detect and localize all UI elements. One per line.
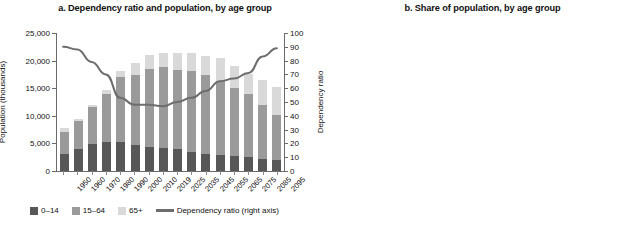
bar-2000 (131, 63, 140, 171)
axis-tick (52, 143, 56, 144)
axis-tick-label: 5,000 (30, 139, 50, 148)
x-axis-tick (263, 171, 264, 175)
axis-tick-label: 40 (290, 111, 299, 120)
bar-segment-014 (74, 149, 83, 171)
bar-2019 (159, 53, 168, 171)
panel-b-title: b. Share of population, by age group (330, 3, 635, 13)
panel-a-y-axis-title: Population (thousands) (0, 61, 7, 143)
bar-segment-65+ (131, 63, 140, 75)
x-axis-tick (191, 171, 192, 175)
axis-tick-label: 30 (290, 125, 299, 134)
bar-segment-1564 (102, 94, 111, 142)
legend-item[interactable]: Dependency ratio (right axis) (156, 206, 279, 215)
legend-item[interactable]: 65+ (118, 206, 143, 215)
panel-a-y2-axis-title: Dependency ratio (316, 71, 325, 134)
bar-segment-1564 (230, 88, 239, 155)
x-axis-tick (106, 171, 107, 175)
axis-tick-label: 15,000 (26, 84, 50, 93)
axis-tick-label: 10,000 (26, 111, 50, 120)
x-axis-tick (277, 171, 278, 175)
axis-tick-label: 20 (290, 139, 299, 148)
bar-segment-014 (131, 145, 140, 171)
bar-2055 (216, 58, 225, 171)
axis-tick (52, 61, 56, 62)
bar-segment-1564 (88, 107, 97, 144)
axis-tick (284, 130, 288, 131)
axis-tick (284, 157, 288, 158)
legend-label: 65+ (129, 206, 143, 215)
x-axis-tick (206, 171, 207, 175)
panel-a-legend: 0–1415–6465+Dependency ratio (right axis… (30, 206, 288, 215)
figure-root: a. Dependency ratio and population, by a… (0, 0, 635, 225)
panel-a: a. Dependency ratio and population, by a… (0, 0, 330, 225)
axis-tick (284, 47, 288, 48)
panel-b: b. Share of population, by age group Per… (330, 0, 635, 225)
bar-segment-014 (159, 148, 168, 171)
axis-tick (284, 143, 288, 144)
bar-segment-65+ (216, 58, 225, 80)
bar-segment-014 (60, 154, 69, 171)
bar-segment-014 (173, 149, 182, 171)
bar-segment-014 (116, 142, 125, 171)
bar-segment-65+ (201, 56, 210, 75)
bar-segment-65+ (230, 66, 239, 88)
bar-segment-1564 (258, 105, 267, 159)
axis-tick-label: 0 (290, 167, 294, 176)
legend-swatch-icon (30, 207, 38, 215)
legend-label: 15–64 (83, 206, 105, 215)
axis-tick (284, 102, 288, 103)
bar-segment-014 (201, 154, 210, 171)
axis-tick-label: 20,000 (26, 56, 50, 65)
bar-segment-1564 (145, 69, 154, 147)
axis-tick-label: 60 (290, 84, 299, 93)
bar-2010 (145, 55, 154, 171)
bar-segment-1564 (60, 132, 69, 155)
legend-item[interactable]: 0–14 (30, 206, 59, 215)
axis-tick (284, 61, 288, 62)
bar-1990 (116, 71, 125, 171)
axis-tick (284, 33, 288, 34)
bar-segment-014 (244, 157, 253, 171)
legend-label: 0–14 (41, 206, 59, 215)
bar-segment-014 (88, 144, 97, 171)
axis-tick (284, 171, 288, 172)
bar-1950 (60, 128, 69, 171)
bar-2075 (244, 74, 253, 171)
legend-line-icon (156, 209, 174, 212)
axis-tick (284, 116, 288, 117)
axis-tick-label: 10 (290, 153, 299, 162)
bar-2025 (173, 53, 182, 171)
bar-2045 (201, 56, 210, 171)
bar-2065 (230, 66, 239, 171)
x-axis-tick (149, 171, 150, 175)
bar-segment-014 (102, 142, 111, 171)
x-axis-tick (177, 171, 178, 175)
bar-segment-014 (187, 152, 196, 171)
x-axis-tick (234, 171, 235, 175)
x-axis-tick (120, 171, 121, 175)
x-axis-tick (163, 171, 164, 175)
panel-a-plot-area: 05,00010,00015,00020,00025,000 010203040… (56, 33, 284, 171)
bar-segment-014 (145, 147, 154, 171)
x-axis-tick (92, 171, 93, 175)
bar-segment-65+ (159, 53, 168, 67)
x-axis-tick (220, 171, 221, 175)
panel-a-title: a. Dependency ratio and population, by a… (0, 3, 330, 13)
bar-segment-1564 (201, 75, 210, 154)
bar-2095 (272, 87, 281, 171)
x-axis-tick (248, 171, 249, 175)
x-axis-tick (63, 171, 64, 175)
x-axis-tick (134, 171, 135, 175)
bar-2085 (258, 80, 267, 171)
bar-segment-65+ (272, 87, 281, 115)
bar-segment-65+ (145, 55, 154, 69)
axis-tick-label: 25,000 (26, 29, 50, 38)
axis-tick (52, 116, 56, 117)
axis-tick (52, 33, 56, 34)
bar-segment-014 (272, 160, 281, 171)
bar-1960 (74, 119, 83, 171)
bar-1980 (102, 90, 111, 171)
x-axis-tick (77, 171, 78, 175)
legend-item[interactable]: 15–64 (72, 206, 105, 215)
axis-tick-label: 90 (290, 42, 299, 51)
